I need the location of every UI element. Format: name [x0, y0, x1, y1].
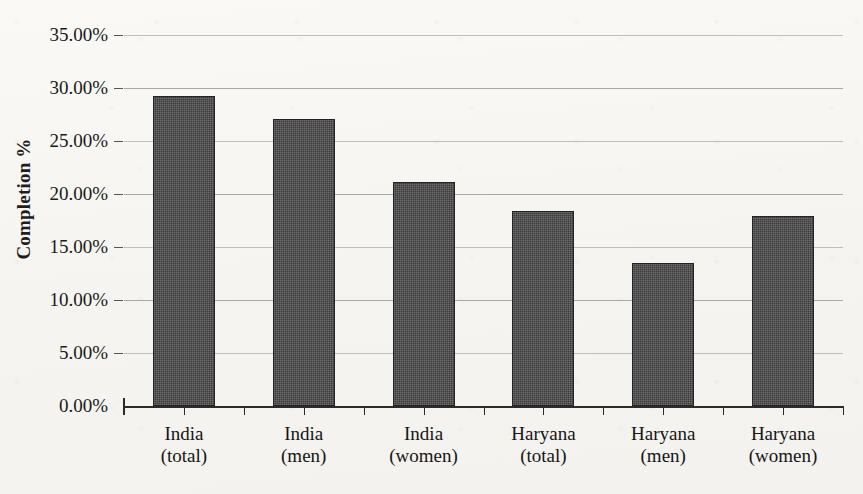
x-axis-tick-label-line2: (women) [723, 445, 843, 467]
y-axis-tick-label: 5.00% [0, 342, 108, 364]
x-axis-center-tick [304, 406, 305, 415]
bar [393, 182, 455, 406]
x-axis-boundary-tick [603, 406, 604, 415]
gridline [124, 35, 843, 36]
bar [153, 96, 215, 406]
y-axis-tick-mark [114, 88, 123, 89]
x-axis-tick-label-line1: Haryana [511, 423, 575, 444]
y-axis-tick-label: 25.00% [0, 130, 108, 152]
y-axis-tick-label: 0.00% [0, 395, 108, 417]
x-axis-center-tick [783, 406, 784, 415]
y-axis-tick-mark [114, 300, 123, 301]
x-axis-tick-label: India(women) [364, 423, 484, 467]
x-axis-tick-label-line1: India [404, 423, 443, 444]
x-axis-center-tick [543, 406, 544, 415]
x-axis-tick-label-line2: (women) [364, 445, 484, 467]
gridline [124, 88, 843, 89]
bar [752, 216, 814, 406]
x-axis-tick-label-line2: (total) [484, 445, 604, 467]
gridline [124, 300, 843, 301]
x-axis-boundary-tick [364, 406, 365, 415]
bar [512, 211, 574, 406]
y-axis-tick-label: 20.00% [0, 183, 108, 205]
x-axis-boundary-tick [244, 406, 245, 415]
y-axis-tick-mark [114, 353, 123, 354]
x-axis-tick-label: Haryana(men) [603, 423, 723, 467]
x-axis-tick-label-line2: (men) [244, 445, 364, 467]
y-axis-tick-mark [114, 247, 123, 248]
x-axis-center-tick [184, 406, 185, 415]
x-axis-center-tick [663, 406, 664, 415]
y-axis-tick-label: 35.00% [0, 24, 108, 46]
gridline [124, 141, 843, 142]
bar-chart: Completion % 0.00%5.00%10.00%15.00%20.00… [0, 0, 863, 494]
x-axis-center-tick [424, 406, 425, 415]
x-axis-boundary-tick [124, 406, 125, 415]
x-axis-boundary-tick [723, 406, 724, 415]
gridline [124, 194, 843, 195]
x-axis-tick-label-line1: Haryana [631, 423, 695, 444]
y-axis-tick-label: 10.00% [0, 289, 108, 311]
bar [632, 263, 694, 406]
x-axis-tick-label-line1: India [164, 423, 203, 444]
x-axis-tick-label-line2: (men) [603, 445, 723, 467]
y-axis-tick-label: 30.00% [0, 77, 108, 99]
x-axis-boundary-tick [484, 406, 485, 415]
x-axis-tick-label: India(men) [244, 423, 364, 467]
y-axis-tick-mark [114, 194, 123, 195]
x-axis-tick-label-line1: Haryana [751, 423, 815, 444]
x-axis-tick-label-line2: (total) [124, 445, 244, 467]
x-axis-tick-label: India(total) [124, 423, 244, 467]
y-axis-tick-mark [114, 35, 123, 36]
y-axis-tick-mark [114, 141, 123, 142]
y-axis-tick-label: 15.00% [0, 236, 108, 258]
gridline [124, 247, 843, 248]
x-axis-boundary-tick [843, 406, 844, 415]
plot-area [124, 35, 843, 406]
x-axis-tick-label: Haryana(women) [723, 423, 843, 467]
bar [273, 119, 335, 406]
x-axis-tick-label: Haryana(total) [484, 423, 604, 467]
x-axis-tick-label-line1: India [284, 423, 323, 444]
gridline [124, 353, 843, 354]
